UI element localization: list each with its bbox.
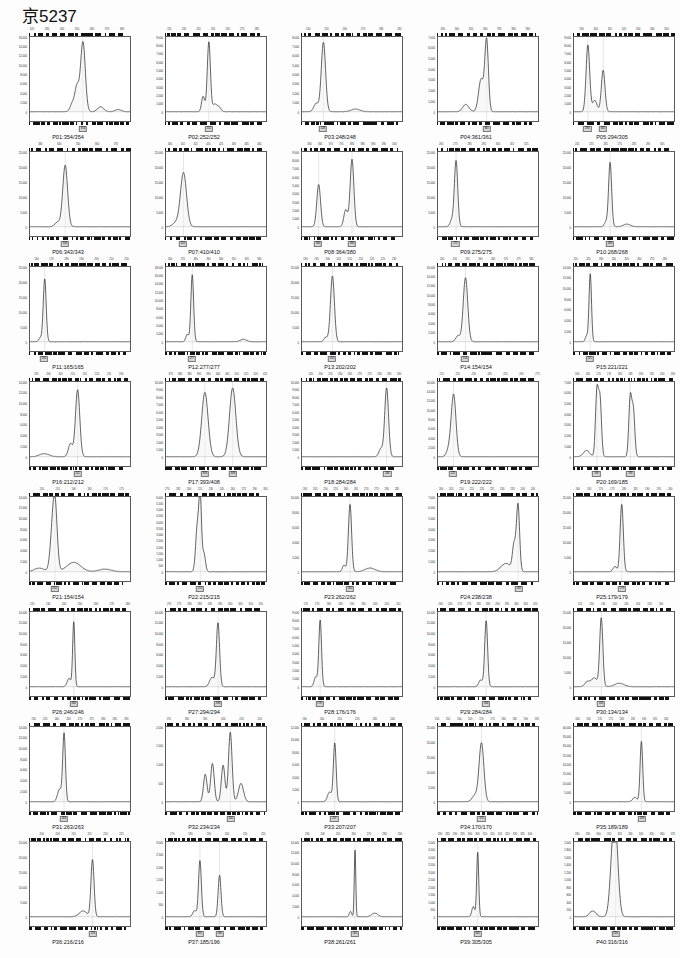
marker-panel-p17[interactable]: 37538038539039540040541041542042501,0002… [136, 371, 272, 486]
allele-call-box[interactable]: 238 [514, 586, 522, 592]
allele-call-box[interactable]: 263 [60, 816, 68, 822]
trace-plot[interactable] [29, 266, 131, 352]
marker-panel-p37[interactable]: 17018019020021022005001,0001,5002,0002,5… [136, 831, 272, 946]
allele-call-box[interactable]: 408 [229, 471, 237, 477]
marker-panel-p08[interactable]: 36036537037538038539039540001,0002,0003,… [272, 141, 408, 256]
marker-panel-p35[interactable]: 16016517017518018519019520005,00010,0001… [544, 716, 680, 831]
allele-call-box[interactable]: 393 [201, 471, 209, 477]
trace-plot[interactable] [437, 611, 539, 697]
allele-call-box[interactable]: 165 [40, 356, 48, 362]
trace-plot[interactable] [301, 36, 403, 122]
allele-call-box[interactable]: 305 [599, 126, 607, 132]
allele-call-box[interactable]: 277 [188, 356, 196, 362]
trace-plot[interactable] [301, 151, 403, 237]
trace-plot[interactable] [29, 151, 131, 237]
trace-plot[interactable] [165, 381, 267, 467]
marker-panel-p26[interactable]: 22023024025026027028002,0004,0006,0008,0… [0, 601, 136, 716]
trace-plot[interactable] [29, 611, 131, 697]
allele-call-box[interactable]: 410 [179, 241, 187, 247]
allele-call-box[interactable]: 316 [611, 931, 619, 937]
allele-call-box[interactable]: 216 [89, 931, 97, 937]
trace-plot[interactable] [301, 266, 403, 352]
trace-plot[interactable] [573, 611, 675, 697]
marker-panel-p32[interactable]: 17018019020021022005001,0001,5002,000204… [136, 716, 272, 831]
marker-panel-p38[interactable]: 23024025026027028029002,0004,0006,0008,0… [272, 831, 408, 946]
marker-panel-p01[interactable]: 32033034035036037038002,0004,0006,0008,0… [0, 26, 136, 141]
trace-plot[interactable] [301, 726, 403, 812]
trace-plot[interactable] [437, 381, 539, 467]
allele-call-box[interactable]: 212 [73, 471, 81, 477]
marker-panel-p40[interactable]: 2802903003103203303403503603700200400600… [544, 831, 680, 946]
marker-panel-p18[interactable]: 24525025526026527027528028529001,0002,00… [272, 371, 408, 486]
trace-plot[interactable] [573, 841, 675, 927]
trace-plot[interactable] [301, 496, 403, 582]
allele-call-box[interactable]: 252 [205, 126, 213, 132]
marker-panel-p12[interactable]: 26027028029030031032033002,0004,0006,000… [136, 256, 272, 371]
allele-call-box[interactable]: 154 [461, 356, 469, 362]
trace-plot[interactable] [165, 266, 267, 352]
marker-panel-p02[interactable]: 22523524525526527528501,0002,0003,0004,0… [136, 26, 272, 141]
marker-panel-p20[interactable]: 16016517017518018519019520020501,0002,00… [544, 371, 680, 486]
trace-plot[interactable] [29, 381, 131, 467]
marker-panel-p09[interactable]: 26527528529530531532505,00010,00015,0002… [408, 141, 544, 256]
allele-call-box[interactable]: 246 [69, 701, 77, 707]
marker-panel-p14[interactable]: 14515015516016517017518002,0004,0006,000… [408, 256, 544, 371]
marker-panel-p04[interactable]: 33034035036037038039001,0002,0003,0004,0… [408, 26, 544, 141]
allele-call-box[interactable]: 215 [196, 586, 204, 592]
allele-call-box[interactable]: 169 [592, 471, 600, 477]
marker-panel-p34[interactable]: 15015516016517017518018519019505,00010,0… [408, 716, 544, 831]
trace-plot[interactable] [573, 36, 675, 122]
trace-plot[interactable] [573, 266, 675, 352]
allele-call-box[interactable]: 284 [482, 701, 490, 707]
trace-plot[interactable] [437, 266, 539, 352]
allele-call-box[interactable]: 305 [473, 931, 481, 937]
allele-call-box[interactable]: 275 [451, 241, 459, 247]
trace-plot[interactable] [165, 151, 267, 237]
allele-call-box[interactable]: 380 [348, 241, 356, 247]
trace-plot[interactable] [165, 611, 267, 697]
allele-call-box[interactable]: 202 [328, 356, 336, 362]
allele-call-box[interactable]: 248 [319, 126, 327, 132]
trace-plot[interactable] [437, 841, 539, 927]
trace-plot[interactable] [165, 496, 267, 582]
allele-call-box[interactable]: 294 [583, 126, 591, 132]
marker-panel-p03[interactable]: 24025026027028029001,0002,0003,0004,0005… [272, 26, 408, 141]
trace-plot[interactable] [573, 726, 675, 812]
marker-panel-p16[interactable]: 19520020521021522022523002,0004,0006,000… [0, 371, 136, 486]
marker-panel-p28[interactable]: 17017518018519019520020521001,0002,0003,… [272, 601, 408, 716]
allele-call-box[interactable]: 196 [215, 931, 223, 937]
allele-call-box[interactable]: 284 [383, 471, 391, 477]
trace-plot[interactable] [301, 611, 403, 697]
marker-panel-p33[interactable]: 19020021022023024002,0004,0006,0008,0001… [272, 716, 408, 831]
allele-call-box[interactable]: 221 [585, 356, 593, 362]
marker-panel-p19[interactable]: 21522523524525526527502,0004,0006,0008,0… [408, 371, 544, 486]
trace-plot[interactable] [437, 151, 539, 237]
allele-call-box[interactable]: 189 [638, 816, 646, 822]
allele-call-box[interactable]: 170 [477, 816, 485, 822]
allele-call-box[interactable]: 294 [214, 701, 222, 707]
marker-panel-p36[interactable]: 20020521021522022505,00010,00015,00020,0… [0, 831, 136, 946]
allele-call-box[interactable]: 207 [330, 816, 338, 822]
allele-call-box[interactable]: 261 [351, 931, 359, 937]
trace-plot[interactable] [573, 151, 675, 237]
marker-panel-p29[interactable]: 26026527027528028529029530030531002,0004… [408, 601, 544, 716]
trace-plot[interactable] [165, 36, 267, 122]
trace-plot[interactable] [573, 381, 675, 467]
marker-panel-p05[interactable]: 29030031032033034035001,0002,0003,0004,0… [544, 26, 680, 141]
marker-panel-p11[interactable]: 16017018019020021022005,00010,00015,0002… [0, 256, 136, 371]
marker-panel-p25[interactable]: 16016517017518018519019520005,00010,0001… [544, 486, 680, 601]
marker-panel-p10[interactable]: 24525526527528529530505,00010,00015,0002… [544, 141, 680, 256]
marker-panel-p27[interactable]: 27027528028529029530030531031502,0004,00… [136, 601, 272, 716]
trace-plot[interactable] [437, 36, 539, 122]
allele-call-box[interactable]: 176 [315, 701, 323, 707]
marker-panel-p24[interactable]: 20020521021522022523023524024501,0002,00… [408, 486, 544, 601]
trace-plot[interactable] [165, 841, 267, 927]
allele-call-box[interactable]: 204 [226, 816, 234, 822]
allele-call-box[interactable]: 154 [50, 586, 58, 592]
allele-call-box[interactable]: 185 [195, 931, 203, 937]
trace-plot[interactable] [573, 496, 675, 582]
marker-panel-p07[interactable]: 40541041542042543043544005,00010,00015,0… [136, 141, 272, 256]
trace-plot[interactable] [29, 496, 131, 582]
trace-plot[interactable] [165, 726, 267, 812]
trace-plot[interactable] [29, 36, 131, 122]
